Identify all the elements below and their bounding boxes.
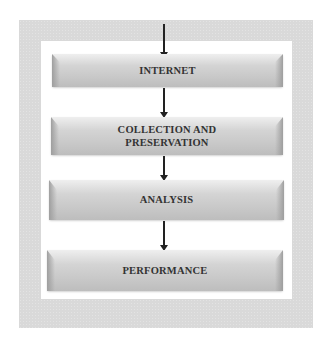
step-label: ANALYSIS	[140, 193, 194, 206]
step-label: PERFORMANCE	[122, 264, 207, 277]
step-label: INTERNET	[139, 64, 195, 77]
step-performance: PERFORMANCE	[47, 250, 283, 291]
arrow-down-icon	[163, 24, 165, 53]
step-analysis: ANALYSIS	[49, 180, 284, 220]
arrow-down-icon	[163, 88, 165, 113]
arrow-down-icon	[163, 156, 165, 176]
step-collection-and-preservation: COLLECTION AND PRESERVATION	[51, 117, 283, 155]
step-internet: INTERNET	[52, 54, 283, 87]
arrow-down-icon	[163, 221, 165, 246]
step-label: COLLECTION AND PRESERVATION	[118, 123, 217, 149]
